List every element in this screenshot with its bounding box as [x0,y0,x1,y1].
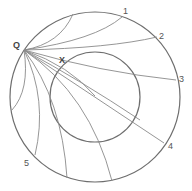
geodesic-to-5 [24,50,40,155]
boundary-label-2: 2 [159,31,164,41]
point-q-label: Q [13,40,20,50]
geodesic-fan [12,14,176,181]
hyperbolic-disk-diagram: Q X 1 2 3 4 5 [0,0,192,191]
geodesic-to-4 [24,50,164,143]
boundary-label-5: 5 [24,158,29,168]
boundary-label-4: 4 [168,141,173,151]
geodesic-top [24,14,73,50]
geodesic-bottom [24,50,67,178]
boundary-label-3: 3 [179,74,184,84]
point-x-label: X [59,55,65,65]
boundary-label-1: 1 [123,6,128,16]
geodesic-to-2 [24,37,157,50]
